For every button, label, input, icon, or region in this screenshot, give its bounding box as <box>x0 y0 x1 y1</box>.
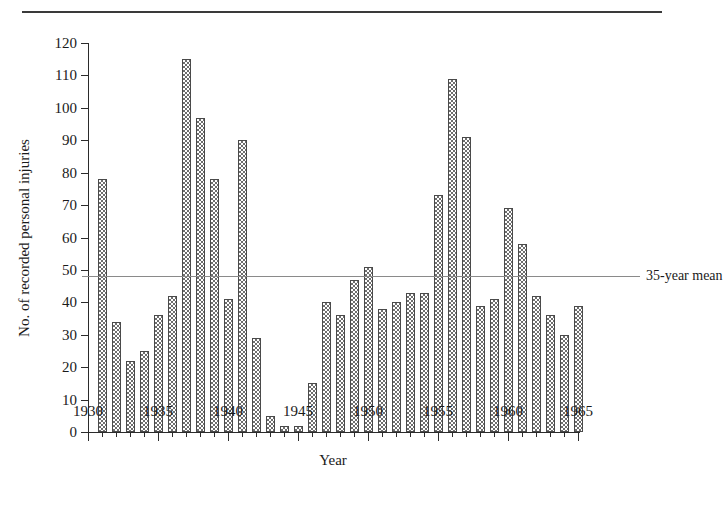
bar <box>532 296 541 432</box>
bar <box>210 179 219 432</box>
y-axis-tick-label: 20 <box>62 360 77 375</box>
x-axis-line <box>88 432 580 433</box>
y-axis-tick <box>81 335 88 336</box>
y-axis-tick <box>81 238 88 239</box>
y-axis-tick <box>81 173 88 174</box>
x-axis-major-tick <box>298 432 299 441</box>
y-axis-tick-label: 50 <box>62 262 77 277</box>
bar <box>112 322 121 432</box>
y-axis-tick <box>81 140 88 141</box>
x-axis-minor-tick <box>242 432 243 437</box>
x-axis-tick-label: 1950 <box>353 404 383 419</box>
x-axis-minor-tick <box>214 432 215 437</box>
y-axis-tick <box>81 43 88 44</box>
x-axis-minor-tick <box>424 432 425 437</box>
x-axis-major-tick <box>88 432 89 441</box>
x-axis-minor-tick <box>116 432 117 437</box>
x-axis-minor-tick <box>466 432 467 437</box>
bar <box>434 195 443 432</box>
y-axis-tick <box>81 302 88 303</box>
y-axis-tick-label: 110 <box>55 68 77 83</box>
x-axis-minor-tick <box>550 432 551 437</box>
x-axis-minor-tick <box>452 432 453 437</box>
x-axis-major-tick <box>368 432 369 441</box>
x-axis-tick-label: 1935 <box>143 404 173 419</box>
x-axis-minor-tick <box>256 432 257 437</box>
bar <box>392 302 401 432</box>
bar <box>406 293 415 432</box>
y-axis-tick-label: 0 <box>70 425 78 440</box>
y-axis-tick-label: 90 <box>62 133 77 148</box>
x-axis-tick-label: 1945 <box>283 404 313 419</box>
x-axis-minor-tick <box>284 432 285 437</box>
x-axis-minor-tick <box>494 432 495 437</box>
x-axis-minor-tick <box>480 432 481 437</box>
x-axis-tick-label: 1940 <box>213 404 243 419</box>
y-axis-tick-label: 40 <box>62 295 77 310</box>
bar <box>126 361 135 432</box>
y-axis-tick <box>81 205 88 206</box>
x-axis-minor-tick <box>340 432 341 437</box>
bar <box>238 140 247 432</box>
bar <box>336 315 345 432</box>
x-axis-minor-tick <box>200 432 201 437</box>
plot-area: 0102030405060708090100110120 <box>88 43 578 432</box>
mean-reference-line <box>82 276 640 277</box>
bar <box>252 338 261 432</box>
bar <box>504 208 513 432</box>
x-axis-minor-tick <box>270 432 271 437</box>
y-axis-tick <box>81 432 88 433</box>
x-axis-minor-tick <box>564 432 565 437</box>
bar <box>196 118 205 432</box>
x-axis-minor-tick <box>354 432 355 437</box>
y-axis-tick-label: 60 <box>62 230 77 245</box>
y-axis-tick-label: 80 <box>62 165 77 180</box>
bar <box>546 315 555 432</box>
x-axis-minor-tick <box>172 432 173 437</box>
y-axis-tick-label: 30 <box>62 327 77 342</box>
bar <box>182 59 191 432</box>
x-axis-tick-label: 1930 <box>73 404 103 419</box>
x-axis-tick-label: 1955 <box>423 404 453 419</box>
bar <box>266 416 275 432</box>
bar <box>448 79 457 432</box>
x-axis-minor-tick <box>312 432 313 437</box>
y-axis-tick <box>81 75 88 76</box>
x-axis-minor-tick <box>410 432 411 437</box>
x-axis-minor-tick <box>522 432 523 437</box>
x-axis-major-tick <box>158 432 159 441</box>
y-axis-tick-label: 100 <box>55 100 78 115</box>
y-axis-tick <box>81 367 88 368</box>
x-axis-minor-tick <box>326 432 327 437</box>
bar <box>140 351 149 432</box>
bar <box>98 179 107 432</box>
x-axis-major-tick <box>508 432 509 441</box>
x-axis-minor-tick <box>186 432 187 437</box>
bar <box>462 137 471 432</box>
bar <box>294 426 303 432</box>
y-axis-tick <box>81 400 88 401</box>
x-axis-tick-label: 1960 <box>493 404 523 419</box>
bar <box>322 302 331 432</box>
x-axis-minor-tick <box>382 432 383 437</box>
y-axis-tick-label: 70 <box>62 198 77 213</box>
y-axis-tick <box>81 270 88 271</box>
y-axis-tick-label: 120 <box>55 36 78 51</box>
bar <box>280 426 289 432</box>
mean-line-label: 35-year mean <box>646 269 723 283</box>
y-axis-tick <box>81 108 88 109</box>
x-axis-title: Year <box>319 452 347 469</box>
bar <box>476 306 485 432</box>
x-axis-minor-tick <box>536 432 537 437</box>
x-axis-minor-tick <box>102 432 103 437</box>
y-axis-title: No. of recorded personal injuries <box>16 139 33 337</box>
x-axis-minor-tick <box>144 432 145 437</box>
x-axis-minor-tick <box>396 432 397 437</box>
x-axis-tick-label: 1965 <box>563 404 593 419</box>
x-axis-major-tick <box>578 432 579 441</box>
x-axis-major-tick <box>228 432 229 441</box>
x-axis-major-tick <box>438 432 439 441</box>
x-axis-minor-tick <box>130 432 131 437</box>
